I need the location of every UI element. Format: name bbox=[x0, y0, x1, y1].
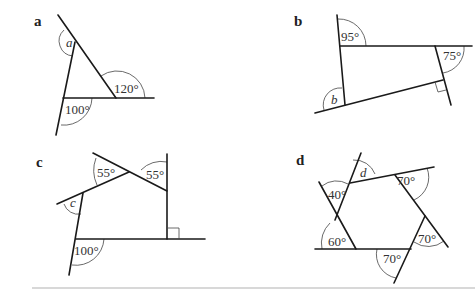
diagram-d: d d 40° 70° 60° 70° 70° bbox=[296, 152, 448, 283]
diagram-c-label: c bbox=[36, 154, 43, 170]
angle-60: 60° bbox=[328, 234, 346, 249]
angle-arc-40 bbox=[322, 181, 348, 186]
angle-40: 40° bbox=[328, 187, 346, 202]
bottom-divider bbox=[32, 287, 475, 289]
angle-55-right: 55° bbox=[146, 167, 164, 182]
angle-55-left: 55° bbox=[97, 165, 115, 180]
angle-var-d: d bbox=[360, 165, 367, 180]
angle-95: 95° bbox=[341, 29, 359, 44]
angle-var-b: b bbox=[331, 92, 338, 107]
diagram-c: c 55° 55° c 100° bbox=[36, 153, 205, 275]
angle-arc-70-top bbox=[414, 168, 429, 200]
diagram-a: a a 120° 100° bbox=[34, 13, 154, 135]
angle-75: 75° bbox=[443, 48, 461, 63]
right-angle-marker-c bbox=[168, 228, 179, 239]
angle-100-c: 100° bbox=[74, 243, 99, 258]
angle-70-bottom: 70° bbox=[383, 251, 401, 266]
diagram-d-label: d bbox=[296, 152, 305, 168]
angle-var-c: c bbox=[70, 195, 76, 210]
angle-100: 100° bbox=[65, 102, 90, 117]
diagram-b: b 95° 75° b bbox=[294, 13, 472, 113]
line-a-2 bbox=[56, 42, 75, 135]
angle-70-right: 70° bbox=[418, 231, 436, 246]
angle-120: 120° bbox=[114, 81, 139, 96]
angle-70-top: 70° bbox=[397, 173, 415, 188]
exercise-figure: a a 120° 100° b 95° 75° b c bbox=[0, 0, 475, 292]
diagram-b-label: b bbox=[294, 13, 302, 29]
line-c-2 bbox=[57, 172, 129, 204]
angle-var-a: a bbox=[66, 35, 73, 50]
diagram-a-label: a bbox=[34, 13, 42, 29]
